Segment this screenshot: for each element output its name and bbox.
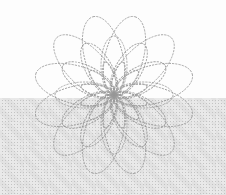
scanned-spirograph-image [0,0,226,195]
middle-loops-ellipse [114,82,173,108]
middle-loops-ellipse [101,36,127,95]
middle-loops-ellipse [101,95,127,154]
middle-loops-ellipse [55,82,114,108]
spirograph-flower [0,0,226,195]
